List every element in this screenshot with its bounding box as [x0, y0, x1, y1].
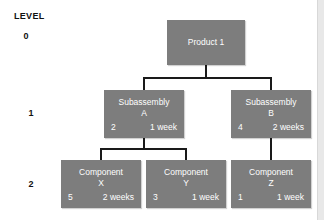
node-component-x-quantity: 5: [68, 192, 73, 203]
node-component-y-stats: 3 1 week: [146, 192, 226, 203]
node-component-y[interactable]: Component Y 3 1 week: [146, 160, 226, 208]
node-component-x-lead-time: 2 weeks: [103, 192, 134, 203]
level-number-1: 1: [21, 108, 41, 118]
node-subassembly-a-identifier: A: [104, 108, 184, 119]
node-subassembly-b-lead-time: 2 weeks: [273, 122, 304, 133]
product-structure-diagram: LEVEL 0 1 2 Product 1 Subassembly A 2 1 …: [0, 0, 324, 220]
node-subassembly-a[interactable]: Subassembly A 2 1 week: [104, 90, 184, 138]
node-subassembly-a-stats: 2 1 week: [104, 122, 184, 133]
level-number-0: 0: [16, 31, 36, 41]
node-component-z-identifier: Z: [231, 178, 311, 189]
node-component-z[interactable]: Component Z 1 1 week: [231, 160, 311, 208]
node-subassembly-b-quantity: 4: [238, 122, 243, 133]
node-component-z-title: Component: [231, 167, 311, 178]
node-component-z-lead-time: 1 week: [277, 192, 304, 203]
node-subassembly-b-identifier: B: [231, 108, 311, 119]
node-component-x-stats: 5 2 weeks: [61, 192, 141, 203]
node-component-y-lead-time: 1 week: [192, 192, 219, 203]
node-component-y-quantity: 3: [153, 192, 158, 203]
node-product-1-title: Product 1: [167, 20, 245, 48]
node-subassembly-a-lead-time: 1 week: [150, 122, 177, 133]
node-component-y-title: Component: [146, 167, 226, 178]
node-component-x-identifier: X: [61, 178, 141, 189]
connector-level2-bus: [100, 148, 187, 150]
connector-level1-bus: [143, 77, 272, 79]
level-legend-label: LEVEL: [14, 11, 45, 21]
node-component-z-quantity: 1: [238, 192, 243, 203]
level-number-2: 2: [21, 179, 41, 189]
node-product-1[interactable]: Product 1: [167, 20, 245, 65]
node-subassembly-b[interactable]: Subassembly B 4 2 weeks: [231, 90, 311, 138]
page-edge-strip: [317, 0, 324, 220]
node-component-x-title: Component: [61, 167, 141, 178]
connector-subassembly-b-to-component-z: [270, 138, 272, 161]
node-subassembly-b-stats: 4 2 weeks: [231, 122, 311, 133]
node-component-x[interactable]: Component X 5 2 weeks: [61, 160, 141, 208]
node-subassembly-a-title: Subassembly: [104, 97, 184, 108]
connector-bus-to-subassembly-b: [270, 77, 272, 91]
connector-bus-to-subassembly-a: [143, 77, 145, 91]
node-subassembly-b-title: Subassembly: [231, 97, 311, 108]
node-subassembly-a-quantity: 2: [111, 122, 116, 133]
node-component-z-stats: 1 1 week: [231, 192, 311, 203]
node-component-y-identifier: Y: [146, 178, 226, 189]
